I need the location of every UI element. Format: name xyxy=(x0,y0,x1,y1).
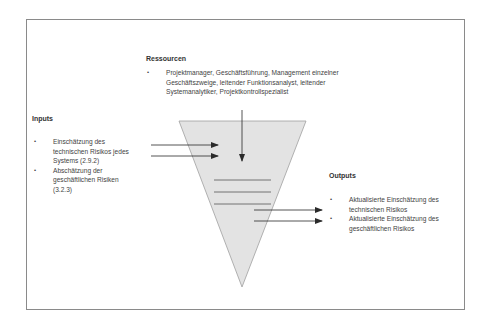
resources-item-line: Systemanalytiker, Projektkontrollspezial… xyxy=(166,87,386,97)
inputs-list: • Einschätzung des technischen Risikos j… xyxy=(53,137,148,195)
output-item-line: technischen Risikos xyxy=(349,205,459,215)
bullet-icon: • xyxy=(330,214,332,224)
output-item-line: geschäftlichen Risikos xyxy=(349,224,459,234)
output-item-line: Aktualisierte Einschätzung des xyxy=(349,214,459,224)
resources-list: • Projektmanager, Geschäftsführung, Mana… xyxy=(166,68,386,97)
resources-item: • Projektmanager, Geschäftsführung, Mana… xyxy=(166,68,386,97)
input-item-line: Abschätzung der xyxy=(53,166,148,176)
output-item-line: Aktualisierte Einschätzung des xyxy=(349,195,459,205)
outputs-heading: Outputs xyxy=(329,172,356,179)
resources-heading: Ressourcen xyxy=(146,55,186,62)
input-item-line: technischen Risikos jedes xyxy=(53,147,148,157)
bullet-icon: • xyxy=(147,68,149,78)
bullet-icon: • xyxy=(34,166,36,176)
input-item: • Abschätzung der geschäftlichen Risiken… xyxy=(53,166,148,195)
resources-item-line: Geschäftszweige, leitender Funktionsanal… xyxy=(166,78,386,88)
output-item: • Aktualisierte Einschätzung des technis… xyxy=(349,195,459,214)
bullet-icon: • xyxy=(34,137,36,147)
bullet-icon: • xyxy=(330,195,332,205)
outputs-list: • Aktualisierte Einschätzung des technis… xyxy=(349,195,459,233)
output-item: • Aktualisierte Einschätzung des geschäf… xyxy=(349,214,459,233)
resources-item-line: Projektmanager, Geschäftsführung, Manage… xyxy=(166,68,386,78)
inputs-heading: Inputs xyxy=(32,115,53,122)
input-item-line: Einschätzung des xyxy=(53,137,148,147)
input-item: • Einschätzung des technischen Risikos j… xyxy=(53,137,148,166)
input-item-line: Systems (2.9.2) xyxy=(53,156,148,166)
input-item-line: geschäftlichen Risiken xyxy=(53,175,148,185)
input-item-line: (3.2.3) xyxy=(53,185,148,195)
